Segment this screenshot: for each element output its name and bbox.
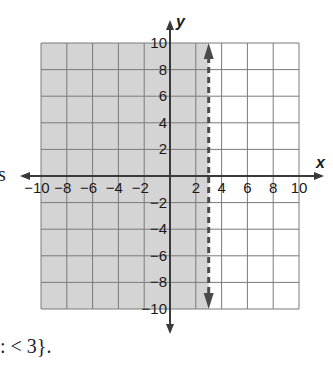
x-tick-label: 2 [192,179,200,196]
y-tick-label: 10 [150,34,167,51]
x-tick-label: −6 [80,179,97,196]
x-tick-label: 6 [243,179,251,196]
y-tick-label: −6 [150,247,167,264]
y-axis-up-arrow-icon [166,20,174,30]
cut-text-left: s [0,163,6,186]
x-axis-right-arrow-icon [314,172,324,180]
y-tick-label: −2 [150,194,167,211]
x-tick-label: −2 [132,179,149,196]
y-tick-label: 8 [159,61,167,78]
y-tick-label: −8 [150,273,167,290]
y-tick-label: 6 [159,87,167,104]
y-axis-label: y [175,13,186,30]
y-axis-down-arrow-icon [166,324,174,334]
y-tick-label: −4 [150,220,167,237]
x-tick-label: −8 [54,179,71,196]
x-tick-label: 8 [269,179,277,196]
y-tick-label: 4 [159,114,167,131]
x-tick-label: −10 [24,179,49,196]
inequality-graph: −10−8−6−4−2246810108642−2−4−6−8−10yx [0,0,333,372]
cut-text-bottom: : < 3}. [0,335,51,358]
x-axis-label: x [315,154,326,171]
x-tick-label: −4 [106,179,123,196]
x-tick-label: 4 [217,179,225,196]
x-tick-label: 10 [291,179,308,196]
y-tick-label: −10 [142,300,167,317]
y-tick-label: 2 [159,140,167,157]
